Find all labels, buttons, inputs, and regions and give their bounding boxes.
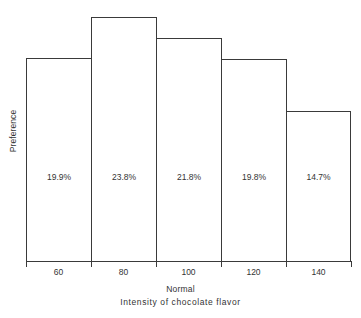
x-axis-tick xyxy=(26,262,27,267)
bar-value-label: 21.8% xyxy=(157,172,221,182)
bar-60: 19.9% xyxy=(26,58,92,262)
y-axis-title-label: Preference xyxy=(8,110,18,153)
x-tick-label-120: 120 xyxy=(221,267,286,277)
x-axis-tick xyxy=(221,262,222,267)
bar-100: 21.8% xyxy=(156,38,222,262)
x-tick-label-80: 80 xyxy=(91,267,156,277)
bar-120: 19.8% xyxy=(221,59,287,262)
bar-value-label: 14.7% xyxy=(287,172,350,182)
x-axis-tick xyxy=(91,262,92,267)
axis-caption-block: Normal Intensity of chocolate flavor xyxy=(0,283,361,309)
plot-area: 19.9%23.8%21.8%19.8%14.7% xyxy=(26,0,351,262)
x-axis-tick xyxy=(286,262,287,267)
bar-80: 23.8% xyxy=(91,17,157,262)
x-tick-label-group: 6080100120140 xyxy=(26,267,351,283)
bar-value-label: 19.9% xyxy=(27,172,91,182)
bar-chart: Preference 19.9%23.8%21.8%19.8%14.7% 608… xyxy=(0,0,361,318)
y-axis-title: Preference xyxy=(0,0,26,262)
x-axis-title: Intensity of chocolate flavor xyxy=(0,296,361,309)
x-tick-label-100: 100 xyxy=(156,267,221,277)
x-axis-tick xyxy=(351,262,352,267)
x-axis-tick xyxy=(156,262,157,267)
bar-value-label: 19.8% xyxy=(222,172,286,182)
x-tick-label-140: 140 xyxy=(286,267,351,277)
x-axis-line xyxy=(26,261,352,262)
bar-value-label: 23.8% xyxy=(92,172,156,182)
x-tick-label-60: 60 xyxy=(26,267,91,277)
x-axis-annotation: Normal xyxy=(0,283,361,296)
bar-140: 14.7% xyxy=(286,111,351,262)
